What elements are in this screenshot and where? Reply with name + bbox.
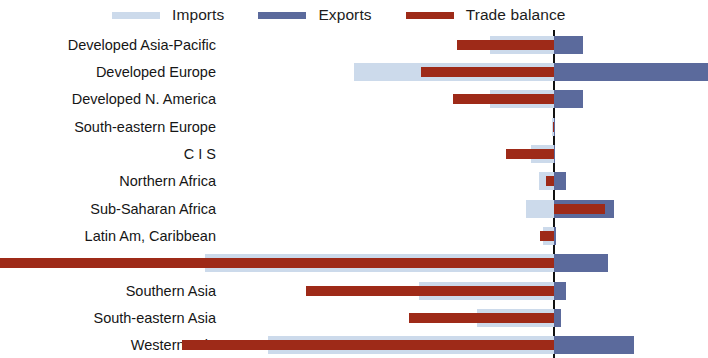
bar-trade-balance — [0, 258, 554, 268]
bar-exports — [554, 36, 583, 54]
bar-trade-balance — [421, 67, 554, 77]
bar-exports — [554, 145, 555, 163]
legend-entry-imports: Imports — [112, 6, 224, 24]
chart-legend: Imports Exports Trade balance — [0, 0, 703, 30]
bar-trade-balance — [540, 231, 554, 241]
bar-row — [0, 57, 703, 84]
bar-trade-balance — [553, 122, 554, 132]
legend-swatch-exports — [258, 12, 306, 19]
bar-trade-balance — [182, 340, 554, 350]
bar-exports — [554, 63, 708, 81]
bar-trade-balance — [457, 40, 554, 50]
bar-exports — [554, 227, 556, 245]
legend-entry-exports: Exports — [258, 6, 371, 24]
bar-exports — [554, 336, 634, 354]
bar-trade-balance — [546, 176, 554, 186]
bar-exports — [554, 282, 566, 300]
legend-swatch-imports — [112, 12, 160, 19]
plot-area: Developed Asia-PacificDeveloped EuropeDe… — [0, 30, 703, 358]
bar-exports — [554, 118, 555, 136]
bar-exports — [554, 309, 561, 327]
bar-trade-balance — [506, 149, 554, 159]
bar-trade-balance — [453, 94, 554, 104]
bars-area — [0, 30, 703, 358]
bar-imports — [526, 200, 554, 218]
legend-label-exports: Exports — [318, 6, 371, 24]
bar-row — [0, 85, 703, 112]
bar-row — [0, 112, 703, 139]
bar-trade-balance — [554, 204, 605, 214]
bar-row — [0, 276, 703, 303]
bar-trade-balance — [306, 286, 554, 296]
bar-row — [0, 167, 703, 194]
legend-swatch-trade-balance — [406, 12, 454, 19]
legend-label-trade-balance: Trade balance — [466, 6, 566, 24]
bar-row — [0, 194, 703, 221]
bar-exports — [554, 172, 566, 190]
bar-row — [0, 30, 703, 57]
bar-row — [0, 303, 703, 330]
legend-label-imports: Imports — [172, 6, 224, 24]
bar-row — [0, 249, 703, 276]
bar-row — [0, 139, 703, 166]
bar-exports — [554, 254, 608, 272]
bar-row — [0, 221, 703, 248]
bar-row — [0, 331, 703, 358]
bar-exports — [554, 90, 583, 108]
legend-entry-trade-balance: Trade balance — [406, 6, 566, 24]
bar-trade-balance — [409, 313, 554, 323]
